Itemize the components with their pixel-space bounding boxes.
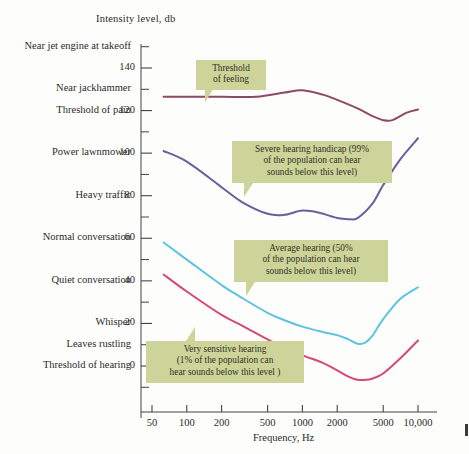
annotation-line: sounds below this level) [237, 167, 387, 178]
annotation-very-sensitive-hearing: Very sensitive hearing(1% of the populat… [146, 341, 304, 383]
annotation-line: hear sounds below this level ) [151, 367, 299, 378]
annotation-severe-hearing-handicap: Severe hearing handicap (99%of the popul… [232, 141, 392, 183]
figure-root: Intensity level, db Near jet engine at t… [0, 0, 469, 454]
annotation-line: Severe hearing handicap (99% [237, 144, 387, 155]
annotation-tail [205, 88, 214, 102]
annotation-line: Threshold [201, 63, 261, 74]
series-group [164, 90, 418, 380]
x-axis-title: Frequency, Hz [253, 432, 314, 443]
series-line-0 [164, 90, 418, 121]
annotation-threshold-of-feeling: Thresholdof feeling [196, 60, 266, 90]
annotation-line: Very sensitive hearing [151, 344, 299, 355]
annotation-tail [244, 183, 253, 197]
annotation-tail [186, 327, 195, 341]
annotation-tail [246, 282, 255, 296]
annotation-line: sounds below this level) [239, 266, 383, 277]
annotation-line: of the population can hear [239, 254, 383, 265]
page-edge-mark [465, 424, 468, 436]
annotation-line: (1% of the population can [151, 355, 299, 366]
x-axis-ticks [152, 405, 418, 412]
y-axis-ticks [141, 47, 152, 388]
annotation-average-hearing: Average hearing (50%of the population ca… [234, 240, 388, 282]
annotation-line: Average hearing (50% [239, 243, 383, 254]
annotation-line: of the population can hear [237, 155, 387, 166]
annotation-line: of feeling [201, 74, 261, 85]
